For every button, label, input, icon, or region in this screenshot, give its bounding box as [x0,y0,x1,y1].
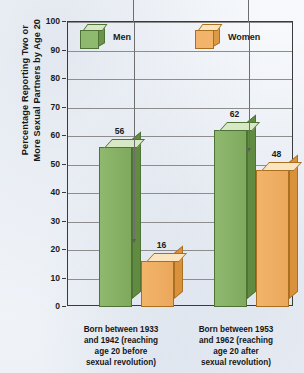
y-tick-label-60: 60 [32,130,60,140]
gridline-100 [68,22,292,23]
y-tick-label-80: 80 [32,73,60,83]
x-category-label-1: Born between 1933 and 1942 (reaching age… [62,324,180,368]
y-tick-label-40: 40 [32,187,60,197]
legend-cube-front [80,30,99,49]
bar-women-group-1 [141,261,174,307]
legend-label-men: Men [113,32,131,42]
y-tick-mark-30 [62,221,66,222]
bar-front-face [214,130,247,307]
legend-item-men[interactable]: Men [80,24,131,50]
y-tick-label-20: 20 [32,244,60,254]
y-tick-mark-100 [62,21,66,22]
y-tick-mark-50 [62,164,66,165]
arrow-to-16-shaft [134,22,135,239]
y-tick-mark-10 [62,278,66,279]
arrow-to-48-head [247,148,251,152]
green-cube-icon [80,24,106,50]
y-tick-mark-0 [62,306,66,307]
x-category-label-2: Born between 1953 and 1962 (reaching age… [177,324,295,368]
bar-chart: Percentage Reporting Two or More Sexual … [0,0,304,373]
arrow-shaft-upper-1 [133,0,134,22]
y-tick-mark-60 [62,135,66,136]
y-tick-mark-90 [62,50,66,51]
y-tick-mark-40 [62,192,66,193]
gridline-90 [68,51,292,52]
legend-label-women: Women [228,32,260,42]
plot-area: 56621648 [67,21,293,306]
bar-side-face [289,155,298,299]
y-tick-mark-20 [62,249,66,250]
bar-value-label-women-group-1: 16 [142,240,182,250]
bar-front-face [256,170,289,307]
gridline-70 [68,108,292,109]
bar-front-face [99,147,132,307]
y-tick-mark-80 [62,78,66,79]
arrow-shaft-upper-2 [248,0,249,22]
bar-men-group-1 [99,147,132,307]
arrow-to-16-head [132,239,136,243]
legend-item-women[interactable]: Women [195,24,260,50]
bar-women-group-2 [256,170,289,307]
y-tick-mark-70 [62,107,66,108]
y-tick-label-30: 30 [32,216,60,226]
orange-cube-icon [195,24,221,50]
y-tick-label-50: 50 [32,159,60,169]
y-tick-label-100: 100 [32,16,60,26]
legend-cube-front [195,30,214,49]
bar-value-label-women-group-2: 48 [257,149,297,159]
bar-men-group-2 [214,130,247,307]
y-tick-label-10: 10 [32,273,60,283]
bar-front-face [141,261,174,307]
y-tick-label-90: 90 [32,45,60,55]
y-tick-label-0: 0 [32,301,60,311]
gridline-80 [68,79,292,80]
y-tick-label-70: 70 [32,102,60,112]
